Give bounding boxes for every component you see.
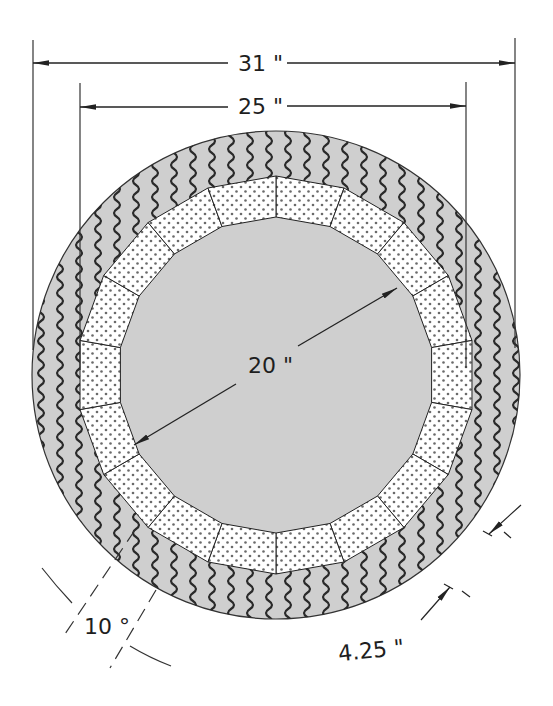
dash-lower [462,591,470,597]
angle-arc-upper [42,568,72,603]
dim-425-lower-arrow [421,587,450,620]
segment-block [80,340,120,409]
dimension-label-10: 10 ° [84,614,130,639]
dim-425-upper-arrow [489,505,521,534]
ring-cross-section-diagram: 31 " 25 " 20 " 4.25 " 10 ° [0,0,553,706]
dash-upper [504,532,511,538]
wave-line [19,121,25,633]
dimension-label-425: 4.25 " [337,635,405,667]
dimension-label-31: 31 " [238,51,283,76]
angle-arc-lower [130,646,171,666]
dimension-label-20: 20 " [248,353,293,378]
dimension-label-25: 25 " [238,94,283,119]
